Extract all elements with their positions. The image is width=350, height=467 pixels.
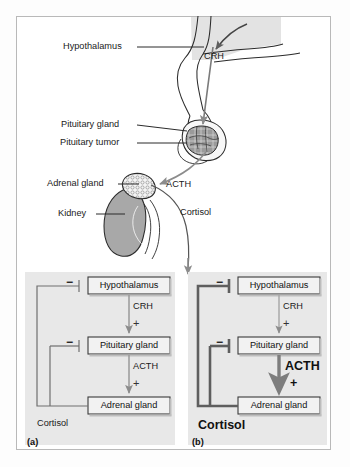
panel-b-hormone-crh: CRH [283, 302, 303, 311]
pituitary-tumor-mass [186, 126, 219, 155]
label-crh: CRH [204, 52, 224, 61]
panel-b-feedback-cortisol: Cortisol [198, 418, 245, 432]
cortisol-arrow [151, 185, 189, 274]
panel-a-hormone-acth: ACTH [133, 362, 158, 371]
panel-b-hormone-acth: ACTH [285, 359, 320, 373]
kidney-organ [104, 189, 160, 259]
panel-a-tag: (a) [27, 437, 38, 447]
panel-a-sign-acth-plus: + [133, 378, 139, 389]
label-adrenal-gland: Adrenal gland [47, 179, 104, 188]
panel-b-sign-minus-hypothalamus: − [216, 276, 223, 288]
panel-a-hormone-crh: CRH [133, 302, 153, 311]
panel-b-box-hypothalamus: Hypothalamus [238, 281, 320, 290]
panel-b-tag: (b) [192, 437, 204, 447]
panel-b-sign-acth-plus: + [290, 376, 297, 390]
panel-b-sign-minus-pituitary: − [216, 336, 223, 348]
panel-a-box-hypothalamus: Hypothalamus [88, 281, 170, 290]
label-pituitary-gland: Pituitary gland [61, 120, 119, 129]
panel-a-sign-crh-plus: + [133, 318, 139, 329]
panel-a-feedback-cortisol: Cortisol [37, 419, 68, 428]
panel-b-box-adrenal-gland: Adrenal gland [238, 401, 320, 410]
label-acth: ACTH [166, 180, 191, 189]
label-hypothalamus: Hypothalamus [63, 42, 122, 51]
panel-b-sign-crh-plus: + [283, 318, 289, 329]
label-kidney: Kidney [58, 209, 86, 218]
diagram-vector-layer [0, 0, 350, 467]
panel-b-box-pituitary-gland: Pituitary gland [238, 341, 320, 350]
figure-root: Hypothalamus CRH Pituitary gland Pituita… [0, 0, 350, 467]
label-pituitary-tumor: Pituitary tumor [60, 138, 119, 147]
panel-a-box-adrenal-gland: Adrenal gland [88, 401, 170, 410]
panel-a-sign-minus-pituitary: − [66, 336, 73, 348]
label-cortisol: Cortisol [180, 208, 211, 217]
panel-a-sign-minus-hypothalamus: − [66, 276, 73, 288]
panel-a-box-pituitary-gland: Pituitary gland [88, 341, 170, 350]
